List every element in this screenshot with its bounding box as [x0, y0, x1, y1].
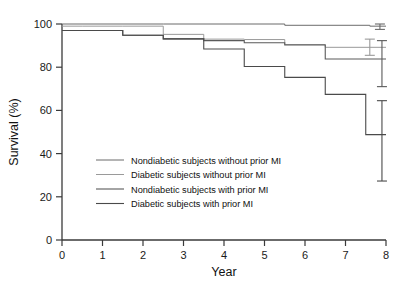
y-tick-label: 100 [34, 18, 52, 30]
series-curves-group [62, 24, 386, 135]
legend-label-0: Nondiabetic subjects without prior MI [131, 156, 281, 166]
x-tick-label: 5 [261, 249, 267, 261]
legend-label-3: Diabetic subjects with prior MI [131, 199, 253, 209]
y-tick-label: 60 [40, 104, 52, 116]
legend-label-2: Nondiabetic subjects with prior MI [131, 185, 268, 195]
x-tick-label: 3 [180, 249, 186, 261]
y-tick-label: 80 [40, 61, 52, 73]
x-tick-label: 8 [383, 249, 389, 261]
series-line-3 [62, 30, 386, 134]
x-axis-title: Year [211, 265, 236, 279]
x-tick-label: 2 [140, 249, 146, 261]
survival-chart-figure: 020406080100 012345678 Survival (%) Year… [0, 0, 410, 287]
chart-legend: Nondiabetic subjects without prior MIDia… [96, 156, 281, 210]
x-axis-ticks: 012345678 [59, 240, 389, 261]
series-line-2 [62, 30, 386, 59]
y-tick-label: 40 [40, 148, 52, 160]
x-tick-label: 7 [342, 249, 348, 261]
y-tick-label: 0 [46, 234, 52, 246]
y-axis-title: Survival (%) [7, 98, 21, 165]
survival-plot: 020406080100 012345678 Survival (%) Year… [0, 0, 410, 287]
y-axis-ticks: 020406080100 [34, 18, 62, 246]
x-tick-label: 6 [302, 249, 308, 261]
x-tick-label: 0 [59, 249, 65, 261]
x-tick-label: 4 [221, 249, 227, 261]
y-tick-label: 20 [40, 191, 52, 203]
series-line-1 [62, 26, 386, 47]
x-tick-label: 1 [99, 249, 105, 261]
legend-label-1: Diabetic subjects without prior MI [131, 170, 266, 180]
